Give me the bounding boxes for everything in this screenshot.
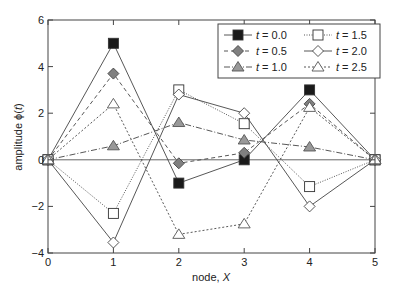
series-line [48,104,375,234]
legend-marker [233,30,243,40]
legend-label: t = 1.5 [336,29,367,41]
x-tick-label: 4 [307,256,313,268]
series-line [48,95,375,243]
data-point [238,218,250,228]
data-point [239,108,250,119]
legend-label: t = 2.5 [336,61,367,73]
data-point [108,38,118,48]
data-point [107,98,119,108]
legend-label: t = 0.5 [256,45,287,57]
series-4 [43,89,381,248]
x-tick-label: 1 [110,256,116,268]
data-point [107,140,119,150]
legend-label: t = 2.0 [336,45,367,57]
x-tick-label: 5 [372,256,378,268]
series-3 [43,85,380,218]
x-tick-label: 3 [241,256,247,268]
y-axis-label: amplitude ϕ(t) [12,103,24,170]
data-point [108,237,119,248]
legend-item: t = 1.5 [304,29,367,41]
y-tick-label: 4 [38,61,44,73]
series-line [48,123,375,160]
data-point [305,182,315,192]
series-5 [42,98,381,238]
data-point [239,119,249,129]
data-point [304,201,315,212]
legend-item: t = 0.0 [224,29,287,41]
series-1 [43,68,381,169]
legend: t = 0.0t = 0.5t = 1.0t = 1.5t = 2.0t = 2… [218,24,380,78]
data-point [108,208,118,218]
series-2 [42,117,381,164]
data-point [108,68,119,79]
y-tick-label: 2 [38,107,44,119]
legend-marker [313,30,323,40]
y-tick-label: −4 [31,247,44,259]
y-tick-label: 0 [38,154,44,166]
y-tick-label: −2 [31,200,44,212]
legend-label: t = 1.0 [256,61,287,73]
data-point [173,117,185,127]
legend-label: t = 0.0 [256,29,287,41]
x-tick-label: 2 [176,256,182,268]
data-point [305,85,315,95]
y-tick-label: 6 [38,14,44,26]
data-point [174,178,184,188]
x-axis-label: node, X [192,271,231,283]
chart: 012345−4−20246 node, X amplitude ϕ(t) t … [0,0,394,296]
x-tick-label: 0 [45,256,51,268]
